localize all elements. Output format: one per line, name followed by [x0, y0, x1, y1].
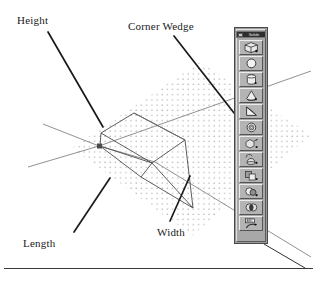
leader-length: [74, 178, 110, 232]
label-corner-wedge: Corner Wedge: [128, 20, 194, 32]
toolbar-titlebar[interactable]: Solids: [236, 31, 266, 38]
subtract-icon[interactable]: [239, 184, 263, 199]
extrude-icon[interactable]: [239, 136, 263, 151]
leader-toolbar-pointer: [264, 244, 305, 268]
toolbar-button-grid[interactable]: ABC: [239, 40, 263, 231]
label-height: Height: [17, 14, 48, 26]
corner-wedge-icon[interactable]: [239, 104, 263, 119]
torus-icon[interactable]: [239, 120, 263, 135]
toolbar-title: Solids: [244, 32, 265, 37]
revolve-icon[interactable]: [239, 152, 263, 167]
ground-plane-dots: [60, 55, 317, 245]
sphere-icon[interactable]: [239, 56, 263, 71]
figure-canvas: Height Corner Wedge Length Width Solids: [0, 0, 317, 281]
svg-text:ABC: ABC: [246, 219, 253, 223]
solids-toolbar-palette[interactable]: Solids: [234, 27, 268, 244]
label-width: Width: [157, 226, 185, 238]
page-bottom-rule: [4, 268, 313, 269]
origin-marker: [97, 144, 102, 149]
cone-icon[interactable]: [239, 88, 263, 103]
leader-height: [48, 32, 103, 127]
intersect-icon[interactable]: [239, 200, 263, 215]
label-length: Length: [23, 237, 55, 249]
box-solid-icon[interactable]: [239, 40, 263, 55]
toolbar-inner-frame: Solids: [236, 29, 266, 242]
cylinder-icon[interactable]: [239, 72, 263, 87]
window-menu-icon[interactable]: [238, 33, 243, 37]
slice-icon[interactable]: ABC: [239, 216, 263, 231]
union-icon[interactable]: [239, 168, 263, 183]
